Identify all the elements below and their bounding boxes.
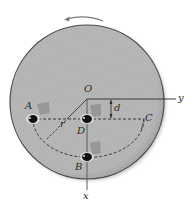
- label-radius: r: [60, 119, 65, 129]
- label-point-d: D: [77, 126, 85, 136]
- label-origin: O: [84, 84, 92, 94]
- label-offset-d: d: [114, 103, 120, 113]
- label-point-b: B: [75, 162, 82, 172]
- label-x-axis: x: [83, 191, 89, 201]
- label-y-axis: y: [178, 93, 184, 103]
- diagram-canvas: O y x A B C D d r: [0, 0, 195, 206]
- rotation-arrow-icon: [64, 17, 103, 22]
- label-point-c: C: [145, 113, 153, 123]
- label-point-a: A: [25, 101, 32, 111]
